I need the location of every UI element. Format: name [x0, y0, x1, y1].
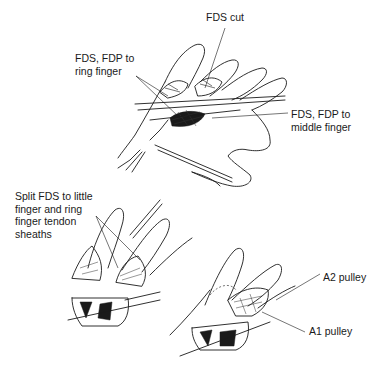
label-fds-fdp-middle-finger: FDS, FDP to middle finger — [291, 108, 351, 133]
label-a2-pulley: A2 pulley — [323, 271, 366, 284]
top-hand-drawing — [118, 28, 288, 186]
label-fds-fdp-ring-finger: FDS, FDP to ring finger — [75, 52, 134, 77]
surgical-illustration: FDS cut FDS, FDP to ring finger FDS, FDP… — [0, 0, 381, 382]
bottom-right-drawing — [170, 248, 320, 356]
label-split-fds-tendon-sheaths: Split FDS to little finger and ring fing… — [15, 190, 93, 240]
label-fds-cut: FDS cut — [206, 11, 244, 24]
label-a1-pulley: A1 pulley — [309, 325, 352, 338]
